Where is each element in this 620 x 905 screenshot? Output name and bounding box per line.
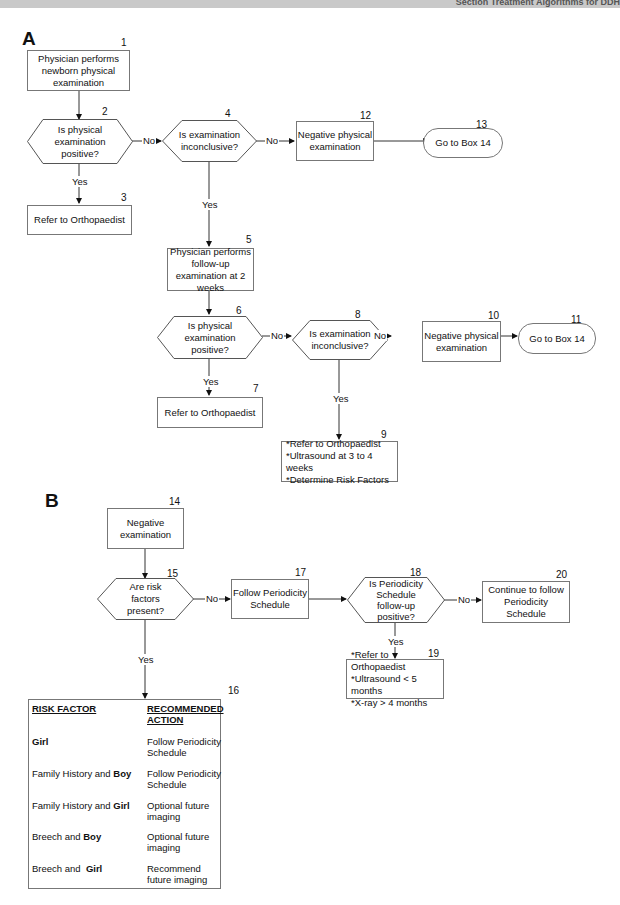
node-6-decision: Is physical examination positive? (157, 316, 263, 359)
edge-yes-4-5: Yes (201, 199, 219, 210)
node-19-line-1: *Refer to Orthopaedist (351, 649, 443, 673)
node-3-number: 3 (121, 192, 127, 203)
edge-no-18-20: No (457, 594, 471, 605)
node-18-decision: Is Periodicity Schedule follow-up positi… (347, 577, 445, 623)
node-5-number: 5 (246, 234, 252, 245)
panel-a-label: A (22, 28, 36, 50)
risk-factor-cell: Girl (32, 736, 142, 747)
node-15-decision: Are risk factors present? (97, 578, 194, 620)
node-18-text: Is Periodicity Schedule follow-up positi… (365, 578, 427, 622)
node-19-line-2: *Ultrasound < 5 months (351, 673, 443, 697)
node-10-number: 10 (488, 310, 499, 321)
node-20-number: 20 (556, 569, 567, 580)
node-12-number: 12 (360, 110, 371, 121)
header-recommended-action: RECOMMENDED ACTION (147, 703, 222, 725)
node-15-text: Are risk factors present? (116, 581, 176, 617)
risk-factor-cell: Family History and Boy (32, 768, 142, 779)
node-2-text: Is physical examination positive? (45, 124, 115, 160)
node-1-number: 1 (121, 37, 127, 48)
node-9-line-2: *Ultrasound at 3 to 4 weeks (286, 450, 397, 474)
header-risk-factor: RISK FACTOR (32, 703, 142, 714)
node-6-text: Is physical examination positive? (175, 320, 245, 356)
node-9-number: 9 (381, 429, 387, 440)
node-9-line-1: *Refer to Orthopaedist (286, 438, 381, 450)
node-19-box: *Refer to Orthopaedist *Ultrasound < 5 m… (346, 659, 444, 699)
edge-yes-2-3: Yes (71, 176, 89, 187)
node-8-text: Is examination inconclusive? (305, 328, 375, 352)
node-6-number: 6 (236, 305, 242, 316)
risk-factor-cell: Family History and Girl (32, 800, 142, 811)
node-14-number: 14 (169, 496, 180, 507)
node-20-box: Continue to follow Periodicity Schedule (482, 581, 570, 623)
node-12-text: Negative physical examination (297, 129, 373, 153)
node-14-text: Negative examination (108, 517, 183, 541)
edge-yes-18-19: Yes (387, 636, 405, 647)
node-13-text: Go to Box 14 (435, 137, 490, 149)
edge-yes-8-9: Yes (332, 393, 350, 404)
node-4-text: Is examination inconclusive? (175, 129, 245, 153)
table-16-number: 16 (228, 685, 239, 696)
node-3-text: Refer to Orthopaedist (34, 214, 125, 226)
node-4-decision: Is examination inconclusive? (162, 120, 257, 162)
edge-no-8-10: No (373, 330, 387, 341)
node-11-text: Go to Box 14 (529, 333, 584, 345)
risk-factor-table: RISK FACTOR RECOMMENDED ACTION Girl Foll… (28, 699, 221, 889)
node-5-text: Physician performs follow-up examination… (168, 246, 253, 294)
node-14-box: Negative examination (107, 508, 184, 549)
node-7-number: 7 (253, 383, 259, 394)
node-9-line-3: *Determine Risk Factors (286, 474, 389, 486)
node-17-text: Follow Periodicity Schedule (232, 587, 308, 611)
node-13-terminal[interactable]: Go to Box 14 (423, 128, 503, 158)
action-cell: Follow Periodicity Schedule (147, 768, 222, 790)
edge-no-6-8: No (270, 330, 284, 341)
edge-no-4-12: No (265, 135, 279, 146)
node-17-box: Follow Periodicity Schedule (231, 579, 309, 619)
node-5-box: Physician performs follow-up examination… (167, 248, 254, 291)
node-2-decision: Is physical examination positive? (27, 119, 133, 164)
edge-no-2-4: No (142, 135, 156, 146)
action-cell: Optional future imaging (147, 800, 222, 822)
node-20-text: Continue to follow Periodicity Schedule (483, 584, 569, 620)
action-cell: Follow Periodicity Schedule (147, 736, 222, 758)
panel-b-label: B (45, 490, 59, 512)
node-12-box: Negative physical examination (296, 121, 374, 161)
node-4-number: 4 (225, 108, 231, 119)
node-8-number: 8 (355, 309, 361, 320)
action-cell: Optional future imaging (147, 831, 222, 853)
action-cell: Recommend future imaging (147, 863, 222, 885)
node-7-box: Refer to Orthopaedist (157, 397, 263, 428)
node-1-text: Physician performs newborn physical exam… (28, 53, 129, 89)
risk-factor-cell: Breech and Boy (32, 831, 142, 842)
edge-no-15-17: No (205, 593, 219, 604)
edge-yes-15-16: Yes (137, 654, 155, 665)
node-10-text: Negative physical examination (423, 330, 500, 354)
edge-yes-6-7: Yes (202, 376, 220, 387)
node-10-box: Negative physical examination (422, 321, 501, 362)
node-17-number: 17 (295, 567, 306, 578)
node-9-box: *Refer to Orthopaedist *Ultrasound at 3 … (281, 441, 398, 482)
node-3-box: Refer to Orthopaedist (27, 205, 132, 235)
node-19-line-3: *X-ray > 4 months (351, 697, 427, 709)
node-1-box: Physician performs newborn physical exam… (27, 50, 130, 91)
risk-factor-cell: Breech and Girl (32, 863, 142, 874)
node-11-terminal[interactable]: Go to Box 14 (518, 323, 596, 354)
node-7-text: Refer to Orthopaedist (165, 407, 256, 419)
node-2-number: 2 (102, 106, 108, 117)
